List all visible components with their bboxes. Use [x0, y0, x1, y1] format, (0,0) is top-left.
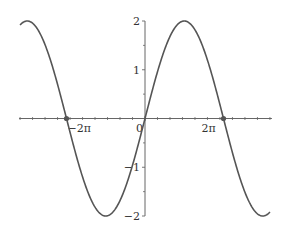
y-tick-label: 2 — [133, 15, 140, 28]
x-tick-label: −2π — [67, 122, 90, 135]
x-tick-label: 2π — [202, 122, 216, 135]
y-tick-label: 1 — [133, 64, 140, 77]
y-tick-label: −2 — [124, 210, 140, 223]
zero-point — [64, 116, 69, 121]
zero-point — [221, 116, 226, 121]
sine-chart: −2π02π21−1−2 — [0, 0, 287, 234]
plot-area: −2π02π21−1−2 — [0, 0, 287, 234]
